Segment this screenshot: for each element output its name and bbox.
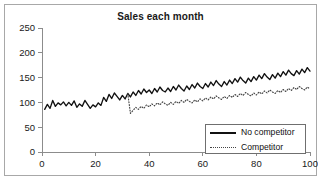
chart-legend: No competitor Competitor bbox=[205, 124, 306, 154]
y-axis-tick-label: 100 bbox=[19, 97, 35, 108]
y-axis-tick-label: 200 bbox=[19, 47, 35, 58]
x-axis-tick-label: 20 bbox=[90, 158, 101, 169]
y-axis-tick-label: 50 bbox=[24, 122, 35, 133]
y-axis-tick-label: 250 bbox=[19, 22, 35, 33]
series-line-competitor bbox=[128, 87, 310, 114]
legend-label-no-competitor: No competitor bbox=[241, 128, 295, 137]
x-axis-tick-label: 80 bbox=[251, 158, 262, 169]
legend-item-competitor: Competitor bbox=[206, 140, 305, 155]
legend-line-dotted-icon bbox=[210, 143, 236, 153]
y-axis-tick-label: 0 bbox=[30, 146, 35, 157]
legend-item-no-competitor: No competitor bbox=[206, 125, 305, 140]
legend-line-solid-icon bbox=[210, 128, 236, 138]
x-axis-tick-label: 0 bbox=[39, 158, 44, 169]
x-axis-tick-label: 60 bbox=[198, 158, 209, 169]
x-axis-tick-label: 100 bbox=[302, 158, 318, 169]
x-axis-tick-label: 40 bbox=[144, 158, 155, 169]
legend-label-competitor: Competitor bbox=[241, 143, 283, 152]
chart-frame: Sales each month 05010015020025002040608… bbox=[4, 4, 317, 176]
y-axis-tick-label: 150 bbox=[19, 72, 35, 83]
